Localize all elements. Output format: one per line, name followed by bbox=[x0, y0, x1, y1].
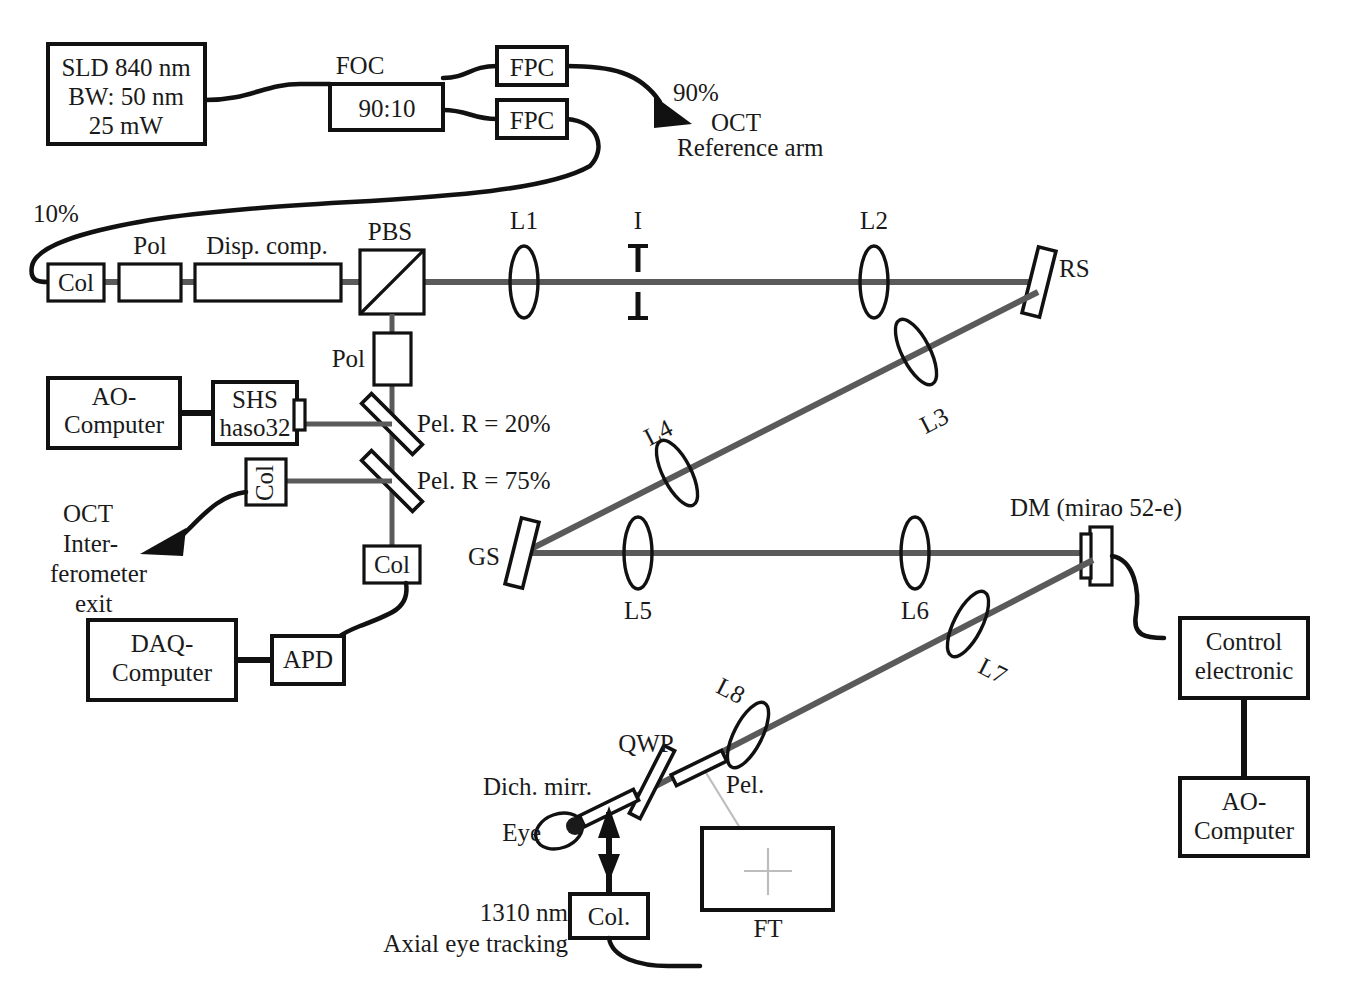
oct-exit-line3: ferometer bbox=[50, 560, 148, 587]
ao-computer-left-line2: Computer bbox=[64, 411, 165, 438]
pbs-group: PBS bbox=[360, 218, 424, 314]
arrowhead-tracking-down bbox=[598, 854, 620, 882]
polarizer-1-group: Pol bbox=[119, 232, 181, 301]
sld-line-2: BW: 50 nm bbox=[68, 83, 184, 110]
pol-2-box bbox=[374, 333, 411, 385]
fixation-target-group: FT bbox=[702, 828, 833, 942]
daq-line1: DAQ- bbox=[131, 630, 194, 657]
dich-mirror-label: Dich. mirr. bbox=[483, 773, 592, 800]
fiber-fpc-top-to-oct-ref bbox=[567, 66, 660, 102]
qwp-label: QWP bbox=[618, 730, 674, 757]
shs-line2: haso32 bbox=[220, 414, 291, 441]
pellicle-eye-optic bbox=[671, 750, 727, 785]
cable-dm-to-control bbox=[1112, 556, 1164, 638]
col-tracking-label: Col. bbox=[588, 903, 630, 930]
ao-computer-left-line1: AO- bbox=[92, 383, 136, 410]
l6-label: L6 bbox=[901, 597, 929, 624]
shs-branch: AO- Computer SHS haso32 bbox=[48, 378, 392, 448]
l5-label: L5 bbox=[624, 597, 652, 624]
foc-coupler-group: FOC 90:10 bbox=[330, 52, 443, 130]
dispersion-compensator-group: Disp. comp. bbox=[195, 232, 341, 301]
pol-1-box bbox=[119, 264, 181, 301]
dm-mirror-body bbox=[1090, 527, 1112, 585]
collimator-input-group: Col bbox=[48, 264, 104, 301]
eye-group: Eye bbox=[502, 807, 587, 855]
fiber-tracking-out bbox=[609, 938, 700, 966]
ft-label: FT bbox=[753, 915, 782, 942]
lens-l1-group: L1 bbox=[510, 207, 538, 318]
beam-rs-to-gs-group: L3 L4 bbox=[523, 292, 1038, 553]
source-group: SLD 840 nm BW: 50 nm 25 mW bbox=[48, 44, 205, 144]
oct-exit-line2: Inter- bbox=[63, 530, 118, 557]
col-input-label: Col bbox=[58, 269, 94, 296]
rs-mirror-group: RS bbox=[1022, 247, 1090, 317]
ao-computer-right-line2: Computer bbox=[1194, 817, 1295, 844]
lens-l2-group: L2 bbox=[860, 207, 888, 318]
col-detection-label: Col bbox=[374, 551, 410, 578]
disp-comp-label: Disp. comp. bbox=[206, 232, 328, 259]
arrowhead-oct-exit bbox=[140, 528, 186, 556]
apd-label: APD bbox=[283, 646, 333, 673]
pol-1-label: Pol bbox=[133, 232, 166, 259]
shs-line1: SHS bbox=[232, 386, 278, 413]
l2-label: L2 bbox=[860, 207, 888, 234]
l8-label: L8 bbox=[712, 672, 749, 709]
control-line2: electronic bbox=[1195, 657, 1294, 684]
beam-dm-to-eye: L7 L8 bbox=[586, 560, 1093, 822]
foc-label: FOC bbox=[336, 52, 385, 79]
fpc-bottom-label: FPC bbox=[510, 107, 554, 134]
beam-rs-to-gs bbox=[523, 292, 1038, 553]
pbs-label: PBS bbox=[368, 218, 412, 245]
split-90-label: 90% bbox=[673, 79, 719, 106]
iris-group: I bbox=[628, 207, 648, 318]
fiber-sld-to-foc bbox=[205, 84, 330, 100]
dm-mirror-face bbox=[1081, 534, 1091, 578]
oct-exit-branch: Col OCT Inter- ferometer exit bbox=[50, 459, 392, 617]
fiber-foc-to-fpc-bottom bbox=[443, 110, 497, 119]
daq-line2: Computer bbox=[112, 659, 213, 686]
beam-dm-to-eye-line bbox=[586, 560, 1093, 822]
sld-line-1: SLD 840 nm bbox=[61, 54, 191, 81]
fiber-col-ref-to-oct-exit bbox=[176, 492, 246, 541]
foc-ratio-label: 90:10 bbox=[359, 95, 416, 122]
oct-reference-line-2: Reference arm bbox=[677, 134, 824, 161]
shs-aperture bbox=[294, 400, 305, 430]
gs-label: GS bbox=[468, 543, 500, 570]
fiber-foc-to-fpc-top bbox=[443, 66, 497, 78]
col-reference-label: Col bbox=[251, 465, 278, 501]
split-10-label: 10% bbox=[33, 200, 79, 227]
oct-reference-line-1: OCT bbox=[711, 109, 761, 136]
ao-computer-right-line1: AO- bbox=[1222, 788, 1266, 815]
optical-setup-diagram: SLD 840 nm BW: 50 nm 25 mW FOC 90:10 FPC… bbox=[0, 0, 1351, 1003]
pellicle-75-label: Pel. R = 75% bbox=[417, 467, 551, 494]
control-line1: Control bbox=[1206, 628, 1282, 655]
pel-eye-label: Pel. bbox=[726, 771, 764, 798]
l7-label: L7 bbox=[974, 652, 1011, 689]
eye-pupil bbox=[566, 817, 584, 835]
pellicle-20-label: Pel. R = 20% bbox=[417, 410, 551, 437]
rs-label: RS bbox=[1059, 255, 1090, 282]
eye-label: Eye bbox=[502, 819, 541, 846]
oct-exit-line1: OCT bbox=[63, 500, 113, 527]
tracking-line2: Axial eye tracking bbox=[383, 930, 568, 957]
fpc-top-label: FPC bbox=[510, 54, 554, 81]
l1-label: L1 bbox=[510, 207, 538, 234]
dm-label: DM (mirao 52-e) bbox=[1010, 494, 1182, 522]
iris-label: I bbox=[634, 207, 642, 234]
pol-2-label: Pol bbox=[332, 345, 365, 372]
fpc-top-group: FPC bbox=[497, 47, 567, 85]
sld-line-3: 25 mW bbox=[89, 112, 164, 139]
tracking-line1: 1310 nm bbox=[480, 899, 569, 926]
dm-group: DM (mirao 52-e) Control electronic AO- C… bbox=[1010, 494, 1308, 856]
daq-branch: DAQ- Computer APD bbox=[88, 583, 407, 700]
fpc-bottom-group: FPC bbox=[497, 100, 567, 138]
disp-comp-box bbox=[195, 264, 341, 301]
oct-exit-line4: exit bbox=[75, 590, 113, 617]
l3-label: L3 bbox=[916, 402, 953, 439]
